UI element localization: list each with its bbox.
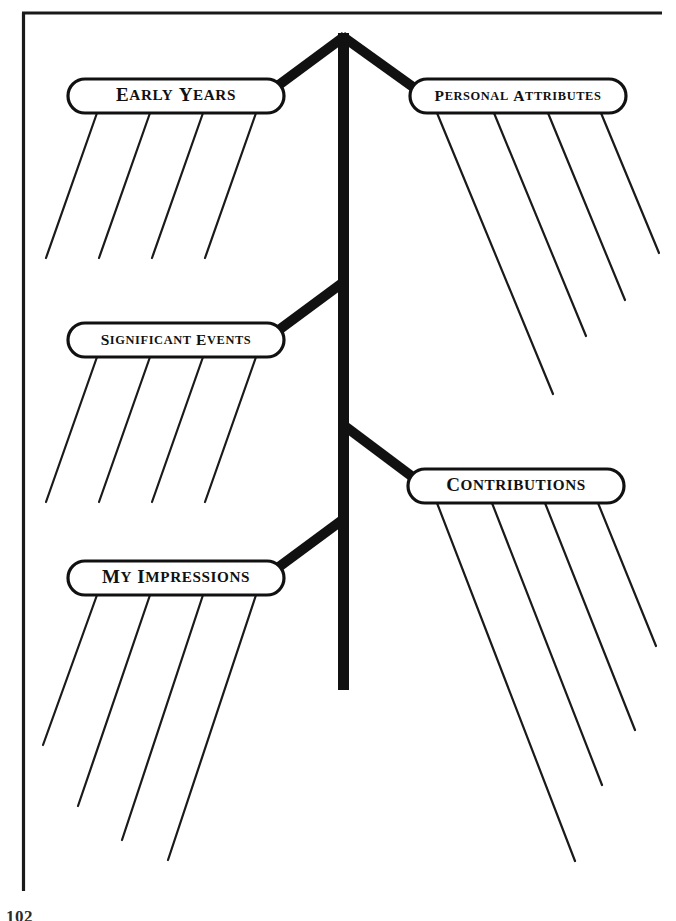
leaf-line[interactable] bbox=[205, 357, 256, 502]
leaf-line[interactable] bbox=[43, 595, 97, 745]
bubble-label-early-years: EARLY YEARS bbox=[116, 84, 236, 105]
leaf-lines-my-impressions bbox=[43, 595, 256, 860]
branch-my-impressions bbox=[272, 518, 345, 572]
leaf-lines-early-years bbox=[46, 113, 256, 258]
branch-personal-attributes bbox=[342, 36, 420, 92]
leaf-line[interactable] bbox=[99, 357, 150, 502]
node-contributions[interactable]: CONTRIBUTIONS bbox=[408, 469, 624, 503]
leaf-lines-personal-attributes bbox=[437, 113, 659, 394]
leaf-line[interactable] bbox=[437, 503, 575, 861]
leaf-lines-contributions bbox=[437, 503, 656, 861]
page-number: 102 bbox=[6, 908, 33, 921]
leaf-line[interactable] bbox=[494, 113, 586, 336]
leaf-line[interactable] bbox=[99, 113, 150, 258]
bubble-label-personal-attributes: PERSONAL ATTRIBUTES bbox=[435, 87, 602, 104]
node-early-years[interactable]: EARLY YEARS bbox=[68, 79, 284, 113]
leaf-lines-significant-events bbox=[46, 357, 256, 502]
bubble-label-contributions: CONTRIBUTIONS bbox=[446, 474, 586, 495]
branch-early-years bbox=[272, 36, 345, 90]
leaf-line[interactable] bbox=[601, 113, 659, 253]
leaf-line[interactable] bbox=[168, 595, 256, 860]
leaf-line[interactable] bbox=[205, 113, 256, 258]
node-personal-attributes[interactable]: PERSONAL ATTRIBUTES bbox=[410, 79, 626, 113]
leaf-line[interactable] bbox=[46, 357, 97, 502]
leaf-line[interactable] bbox=[122, 595, 203, 840]
bubble-label-my-impressions: MY IMPRESSIONS bbox=[102, 566, 250, 587]
leaf-line[interactable] bbox=[598, 503, 656, 646]
leaf-line[interactable] bbox=[78, 595, 150, 806]
branch-significant-events bbox=[272, 281, 345, 335]
branch-contributions bbox=[342, 424, 418, 481]
tree-structure bbox=[272, 33, 420, 690]
leaf-line[interactable] bbox=[152, 113, 203, 258]
leaf-line[interactable] bbox=[437, 113, 553, 394]
leaf-line[interactable] bbox=[46, 113, 97, 258]
node-significant-events[interactable]: SIGNIFICANT EVENTS bbox=[68, 323, 284, 357]
bubble-label-significant-events: SIGNIFICANT EVENTS bbox=[101, 331, 252, 348]
node-my-impressions[interactable]: MY IMPRESSIONS bbox=[68, 561, 284, 595]
leaf-line[interactable] bbox=[152, 357, 203, 502]
leaf-line[interactable] bbox=[492, 503, 602, 785]
leaf-line[interactable] bbox=[545, 503, 635, 730]
